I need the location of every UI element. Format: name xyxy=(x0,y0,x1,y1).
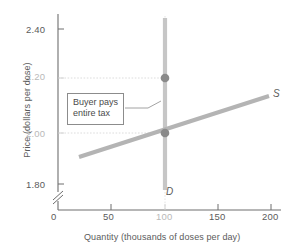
x-axis-tick-label-200: 200 xyxy=(262,211,278,222)
y-axis-ticks xyxy=(58,29,64,184)
supply-curve-label: S xyxy=(273,88,280,99)
y-axis-tick-label-180: 1.80 xyxy=(26,179,45,190)
x-axis-tick-label-50: 50 xyxy=(103,211,114,222)
annotation-buyer-pays-entire-tax: Buyer pays entire tax xyxy=(67,93,124,125)
demand-curve-label: D xyxy=(166,186,173,197)
y-axis-tick-label-240: 2.40 xyxy=(26,24,45,35)
x-axis-tick-label-100: 100 xyxy=(156,211,172,222)
economics-supply-demand-chart: 2.40 2.20 2.00 1.80 0 50 100 150 200 Pri… xyxy=(0,0,294,249)
annotation-text-line-2: entire tax xyxy=(73,108,118,119)
annotation-text-line-1: Buyer pays xyxy=(73,97,118,107)
x-axis-tick-label-150: 150 xyxy=(209,211,225,222)
y-axis-title: Price (dollars per dose) xyxy=(22,40,32,180)
data-point-price-220 xyxy=(161,74,170,83)
x-axis-tick-label-0: 0 xyxy=(51,211,56,222)
data-point-price-200 xyxy=(161,129,170,138)
annotation-leader-line xyxy=(125,101,161,108)
chart-canvas xyxy=(0,0,294,249)
x-axis-title: Quantity (thousands of doses per day) xyxy=(84,232,240,242)
x-axis-ticks xyxy=(111,204,271,210)
